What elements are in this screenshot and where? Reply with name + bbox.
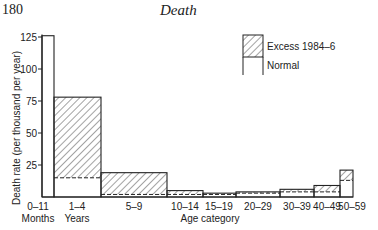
x-tick-label: 0–11 (27, 201, 49, 212)
x-tick-sublabel: Years (64, 213, 89, 224)
death-rate-chart: 2550751001250–11Months1–4Years5–910–1415… (0, 0, 378, 230)
bar-8 (340, 170, 353, 197)
x-tick-label: 30–39 (283, 201, 311, 212)
excess-segment (340, 170, 353, 180)
bar-7 (314, 185, 340, 197)
legend-excess-label: Excess 1984–6 (267, 41, 336, 52)
legend-normal-label: Normal (267, 60, 299, 71)
legend: Excess 1984–6 Normal (243, 35, 336, 75)
y-tick-label: 125 (20, 32, 37, 43)
x-tick-sublabel: Months (22, 213, 55, 224)
x-tick-label: 40–49 (313, 201, 341, 212)
excess-segment (167, 191, 203, 195)
y-tick-label: 50 (26, 128, 38, 139)
bar-1 (54, 97, 101, 197)
x-tick-label: 10–14 (171, 201, 199, 212)
bar-6 (280, 189, 314, 197)
legend-excess-swatch (243, 35, 263, 57)
y-tick-label: 100 (20, 64, 37, 75)
bar-outline (42, 36, 54, 197)
bar-2 (101, 173, 167, 197)
x-tick-label: 1–4 (69, 201, 86, 212)
excess-segment (314, 185, 340, 191)
y-tick-label: 25 (26, 160, 38, 171)
x-tick-label: 5–9 (126, 201, 143, 212)
excess-segment (101, 173, 167, 195)
bar-0 (42, 36, 54, 197)
x-tick-label: 15–19 (205, 201, 233, 212)
y-axis-label: Death rate (per thousand per year) (11, 51, 22, 205)
y-tick-label: 75 (26, 96, 38, 107)
excess-segment (54, 97, 101, 178)
x-axis-label: Age category (181, 213, 240, 224)
bars-group (42, 36, 353, 197)
bar-5 (236, 192, 280, 197)
x-tick-label: 50–59 (338, 201, 366, 212)
bar-3 (167, 191, 203, 197)
x-tick-label: 20–29 (244, 201, 272, 212)
